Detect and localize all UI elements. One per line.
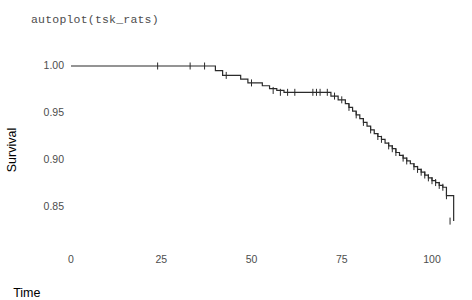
survival-step-line bbox=[71, 66, 454, 221]
plot-page: autoplot(tsk_rats) 1.000.950.900.85 Surv… bbox=[0, 0, 472, 300]
survival-curve-plot bbox=[0, 0, 472, 300]
censoring-tick-marks bbox=[158, 63, 450, 225]
